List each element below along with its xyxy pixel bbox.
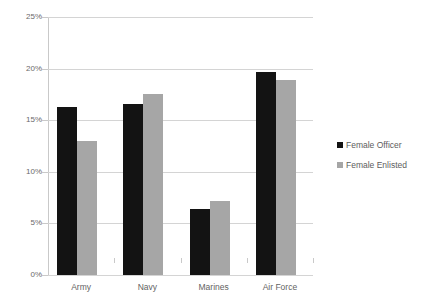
bar[interactable]: [276, 80, 296, 275]
bar-group: [181, 17, 247, 275]
x-axis-tick-mark: [48, 258, 49, 263]
y-axis-tick-label: 25%: [10, 13, 42, 21]
bar[interactable]: [190, 209, 210, 275]
legend-swatch-icon: [337, 162, 343, 168]
plot-area: [48, 17, 313, 275]
bar-group: [247, 17, 313, 275]
bar[interactable]: [57, 107, 77, 275]
legend-item-female-enlisted[interactable]: Female Enlisted: [337, 157, 421, 173]
legend-swatch-icon: [337, 142, 343, 148]
x-axis-tick-mark: [247, 258, 248, 263]
y-axis-tick-label: 0%: [10, 271, 42, 279]
gridline: [48, 275, 313, 276]
bar[interactable]: [256, 72, 276, 275]
x-axis-tick-mark: [181, 258, 182, 263]
y-axis-tick-label: 20%: [10, 65, 42, 73]
x-axis-tick-label: Air Force: [247, 283, 313, 292]
x-axis-tick-mark: [313, 258, 314, 263]
y-axis-tick-label: 5%: [10, 219, 42, 227]
bar[interactable]: [77, 141, 97, 275]
x-axis-tick-label: Navy: [114, 283, 180, 292]
y-axis-tick-label: 15%: [10, 116, 42, 124]
x-axis-tick-mark: [114, 258, 115, 263]
y-axis-tick-label: 10%: [10, 168, 42, 176]
chart-title: [0, 0, 330, 1]
bar[interactable]: [123, 104, 143, 275]
legend-item-label: Female Enlisted: [346, 161, 407, 170]
x-axis-tick-label: Army: [48, 283, 114, 292]
legend-item-female-officer[interactable]: Female Officer: [337, 137, 421, 153]
bar-chart: 0%5%10%15%20%25% ArmyNavyMarinesAir Forc…: [0, 0, 423, 306]
bar-group: [48, 17, 114, 275]
x-axis-tick-label: Marines: [181, 283, 247, 292]
bar[interactable]: [143, 94, 163, 275]
bar-group: [114, 17, 180, 275]
bar[interactable]: [210, 201, 230, 275]
chart-legend: Female Officer Female Enlisted: [337, 137, 421, 177]
legend-item-label: Female Officer: [346, 141, 402, 150]
